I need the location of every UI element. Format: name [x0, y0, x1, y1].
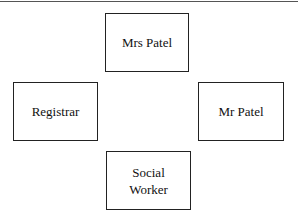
top-rule: [0, 1, 298, 2]
node-label-line2: Worker: [129, 181, 168, 198]
node-label-line1: Social: [132, 164, 165, 181]
node-social-worker: Social Worker: [106, 151, 191, 210]
node-mrs-patel: Mrs Patel: [105, 13, 189, 72]
node-label: Registrar: [32, 103, 80, 120]
node-label: Mr Patel: [218, 103, 263, 120]
node-mr-patel: Mr Patel: [198, 82, 284, 141]
node-registrar: Registrar: [13, 82, 98, 141]
node-label: Mrs Patel: [122, 34, 172, 51]
